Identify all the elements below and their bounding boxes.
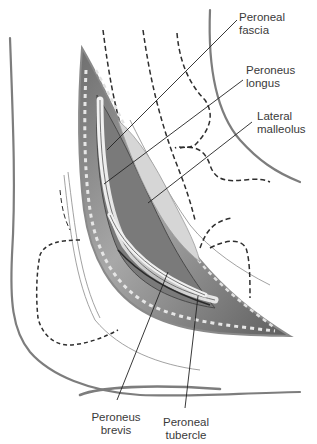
incision <box>79 48 290 336</box>
label-peroneal-fascia: Peroneal fascia <box>239 11 285 37</box>
label-peroneal-tubercle: Peroneal tubercle <box>156 416 216 442</box>
label-lateral-malleolus: Lateral malleolus <box>257 110 306 136</box>
label-peroneus-longus: Peroneus longus <box>246 64 295 90</box>
label-peroneus-brevis: Peroneus brevis <box>86 411 146 437</box>
